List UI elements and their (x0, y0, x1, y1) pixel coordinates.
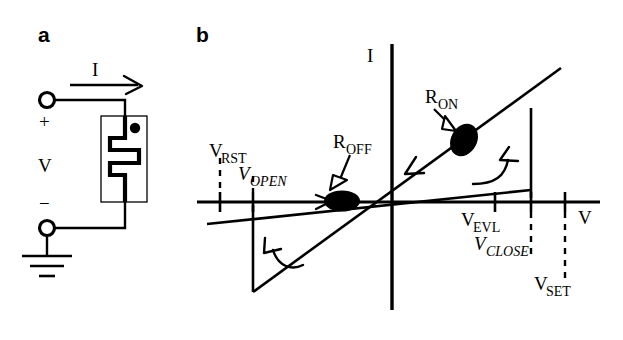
v-close-sub: CLOSE (486, 244, 529, 259)
r-on-label: R ON (425, 86, 458, 112)
bottom-wire (55, 202, 125, 228)
minus-label: − (39, 193, 50, 214)
r-off-label: R OFF (333, 131, 372, 157)
r-off-state-marker (324, 191, 360, 212)
v-open-label: V OPEN (238, 163, 287, 189)
current-arrow (70, 76, 142, 94)
top-wire (55, 100, 125, 116)
plus-label: + (39, 111, 50, 132)
voltage-label: V (38, 155, 52, 176)
reset-loop-curved-arrow (264, 238, 303, 267)
ground-symbol (22, 236, 72, 276)
r-on-pointer-arrow (434, 109, 456, 131)
r-off-pointer-arrow (330, 155, 350, 190)
polarity-dot (130, 123, 140, 133)
figure-svg: a I + V − (0, 0, 623, 340)
set-loop-curved-arrow (473, 147, 518, 184)
panel-b-group: b I V (196, 23, 600, 310)
top-terminal-node (40, 93, 55, 108)
v-set-sub: SET (546, 284, 571, 299)
r-off-label-base: R (333, 131, 346, 152)
panel-a-group: a I + V − (22, 23, 147, 276)
v-open-sub: OPEN (250, 174, 287, 189)
on-branch-direction-arrow (405, 157, 424, 174)
r-on-label-sub: ON (438, 97, 458, 112)
v-close-label: V CLOSE (474, 233, 529, 259)
r-off-label-sub: OFF (346, 142, 372, 157)
v-evl-label: V EVL (461, 209, 500, 235)
current-label: I (92, 59, 98, 80)
y-axis-label: I (367, 45, 373, 66)
panel-a-letter: a (38, 23, 50, 46)
x-axis-label: V (578, 207, 592, 228)
figure-container: a I + V − (0, 0, 623, 340)
r-on-label-base: R (425, 86, 438, 107)
bottom-terminal-node (40, 221, 55, 236)
panel-b-letter: b (196, 23, 209, 46)
